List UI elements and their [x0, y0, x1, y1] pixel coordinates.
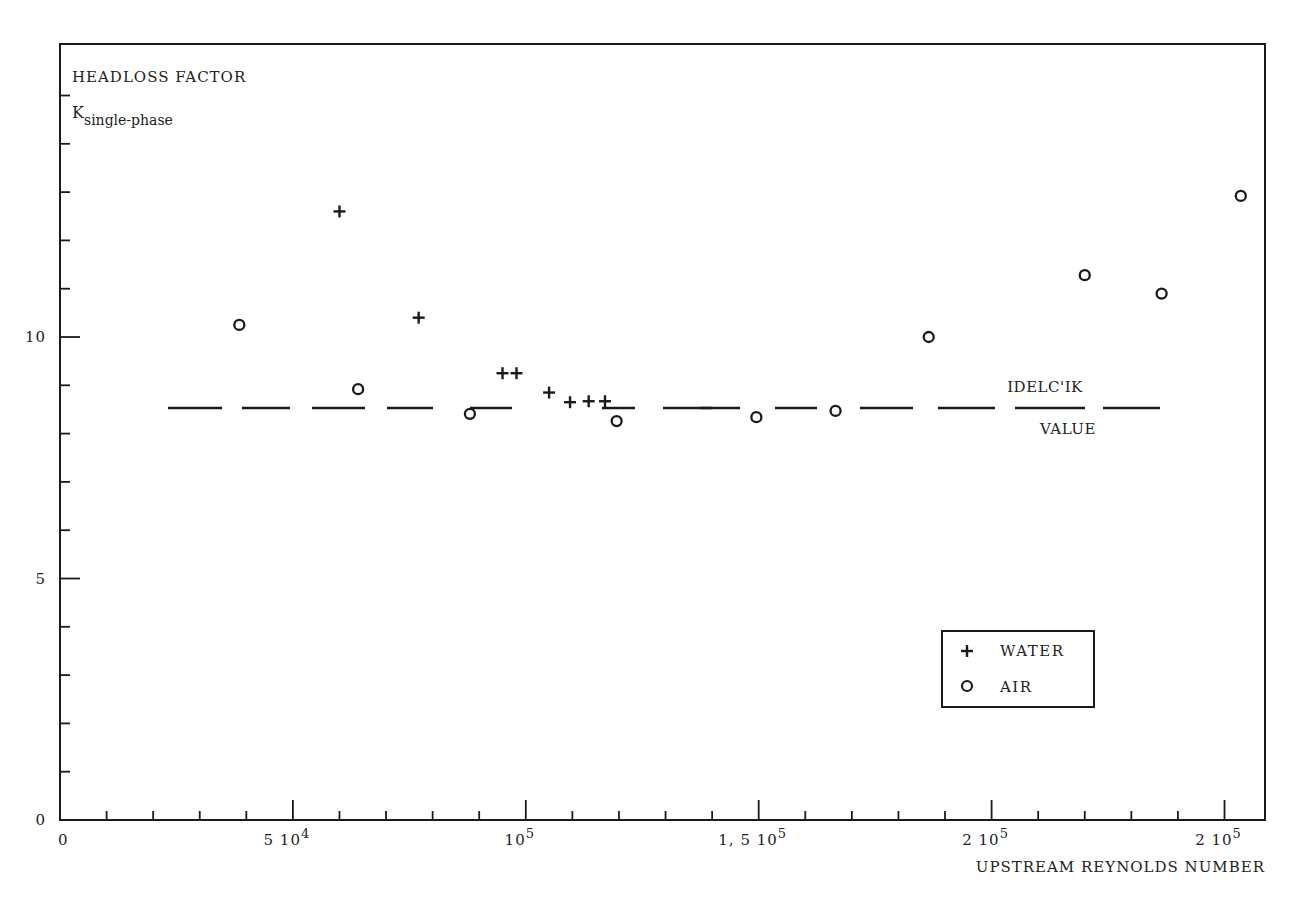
air-data-point	[353, 384, 363, 394]
x-axis: 05 1041051, 5 1052 1052 105	[58, 800, 1242, 849]
reference-label-bottom: VALUE	[1039, 420, 1096, 438]
water-data-point	[564, 396, 576, 408]
reference-label-top: IDELC'IK	[1007, 378, 1083, 396]
y-axis-title: HEADLOSS FACTOR	[72, 68, 246, 86]
y-tick-label: 5	[35, 570, 46, 588]
water-data-point	[599, 395, 611, 407]
air-data-point	[612, 416, 622, 426]
x-tick-label: 2 105	[1195, 826, 1242, 849]
x-axis-title: UPSTREAM REYNOLDS NUMBER	[976, 858, 1265, 876]
y-tick-label: 10	[25, 328, 46, 346]
legend-label-air: AIR	[999, 678, 1033, 696]
air-data-point	[751, 412, 761, 422]
x-tick-label: 1, 5 105	[718, 826, 787, 849]
x-tick-label: 105	[505, 826, 535, 849]
water-data-point	[510, 367, 522, 379]
water-data-point	[413, 312, 425, 324]
y-tick-label: 0	[35, 811, 46, 829]
legend: WATER AIR	[942, 631, 1094, 707]
air-data-point	[924, 332, 934, 342]
x-tick-label: 0	[58, 831, 69, 849]
water-data-point	[497, 367, 509, 379]
y-axis-symbol: Ksingle-phase	[72, 103, 173, 128]
y-axis-symbol-subscript: single-phase	[84, 112, 173, 128]
air-data-point	[1157, 289, 1167, 299]
water-data-point	[543, 387, 555, 399]
air-data-point	[831, 406, 841, 416]
water-data-point	[583, 395, 595, 407]
air-data-point	[1080, 270, 1090, 280]
air-data-point	[465, 409, 475, 419]
air-data-point	[234, 320, 244, 330]
legend-label-water: WATER	[1000, 642, 1064, 660]
y-axis: 0510	[25, 96, 80, 830]
water-data-point	[333, 205, 345, 217]
air-data-point	[1236, 191, 1246, 201]
x-tick-label: 2 105	[962, 826, 1009, 849]
x-tick-label: 5 104	[264, 826, 311, 849]
chart: 05 1041051, 5 1052 1052 105 0510 HEADLOS…	[0, 0, 1301, 911]
air-series	[234, 191, 1245, 426]
water-series	[333, 205, 611, 408]
